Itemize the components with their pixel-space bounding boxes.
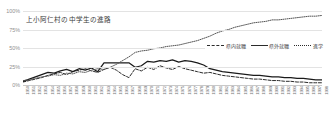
- legend-item[interactable]: 進学: [294, 42, 323, 49]
- legend-line-swatch-icon: [294, 43, 311, 47]
- x-axis-tick-label: 1987: [255, 86, 260, 95]
- x-axis-tick-label: 1962: [99, 86, 104, 95]
- legend-line-swatch-icon: [207, 43, 224, 47]
- legend-item[interactable]: 県内就職: [207, 42, 246, 49]
- x-axis-tick-label: 1968: [137, 86, 142, 95]
- x-axis-tick-label: 1983: [230, 86, 235, 95]
- chart-container: 0%25%50%75%100% 上小阿仁村の中学生の進路 19501951195…: [0, 0, 329, 114]
- x-axis-tick-label: 1991: [280, 86, 285, 95]
- x-axis-tick-label: 1969: [143, 86, 148, 95]
- legend-label: 県内就職: [226, 42, 246, 49]
- x-axis-tick-label: 1955: [56, 86, 61, 95]
- x-axis-tick-label: 1972: [162, 86, 167, 95]
- gridline: [23, 67, 322, 68]
- x-axis-tick-label: 1971: [155, 86, 160, 95]
- chart-legend: 県内就職県外就職進学: [205, 40, 325, 50]
- gridline: [23, 11, 322, 12]
- x-axis-tick-label: 1998: [324, 86, 329, 95]
- x-axis-tick-label: 1960: [87, 86, 92, 95]
- x-axis-tick-label: 1956: [62, 86, 67, 95]
- x-axis-tick-label: 1993: [292, 86, 297, 95]
- series-line-県内就職: [23, 66, 322, 83]
- legend-item[interactable]: 県外就職: [251, 42, 290, 49]
- x-axis-tick-label: 1975: [180, 86, 185, 95]
- x-axis-tick-label: 1973: [168, 86, 173, 95]
- y-axis-tick-label: 75%: [9, 27, 20, 33]
- x-axis-tick-label: 1957: [68, 86, 73, 95]
- x-axis-tick-label: 1952: [37, 86, 42, 95]
- x-axis-tick-label: 1970: [149, 86, 154, 95]
- x-axis-tick-label: 1966: [124, 86, 129, 95]
- x-axis-tick-label: 1988: [261, 86, 266, 95]
- y-axis-labels: 0%25%50%75%100%: [0, 11, 21, 85]
- x-axis-tick-label: 1979: [205, 86, 210, 95]
- series-line-県外就職: [23, 60, 322, 81]
- x-axis-tick-label: 1954: [50, 86, 55, 95]
- legend-label: 県外就職: [269, 42, 289, 49]
- x-axis-labels: 1950195119521953195419551956195719581959…: [23, 86, 322, 112]
- x-axis-tick-label: 1978: [199, 86, 204, 95]
- x-axis-tick-label: 1953: [43, 86, 48, 95]
- legend-label: 進学: [313, 42, 323, 49]
- x-axis-tick-label: 1977: [193, 86, 198, 95]
- x-axis-tick-label: 1982: [224, 86, 229, 95]
- y-axis-tick-label: 0%: [12, 82, 20, 88]
- x-axis-tick-label: 1959: [81, 86, 86, 95]
- x-axis-tick-label: 1950: [25, 86, 30, 95]
- x-axis-tick-label: 1992: [286, 86, 291, 95]
- x-axis-tick-label: 1989: [268, 86, 273, 95]
- x-axis-tick-label: 1967: [130, 86, 135, 95]
- y-axis-tick-label: 25%: [9, 64, 20, 70]
- x-axis-tick-label: 1963: [106, 86, 111, 95]
- x-axis-tick-label: 1951: [31, 86, 36, 95]
- x-axis-tick-label: 1994: [299, 86, 304, 95]
- gridline: [23, 30, 322, 31]
- x-axis-tick-label: 1958: [74, 86, 79, 95]
- x-axis-tick-label: 1984: [236, 86, 241, 95]
- x-axis-tick-label: 1986: [249, 86, 254, 95]
- y-axis-tick-label: 50%: [9, 45, 20, 51]
- y-axis-tick-label: 100%: [6, 8, 20, 14]
- chart-title: 上小阿仁村の中学生の進路: [26, 14, 111, 24]
- x-axis-tick-label: 1976: [187, 86, 192, 95]
- x-axis-tick-label: 1990: [274, 86, 279, 95]
- x-axis-tick-label: 1965: [118, 86, 123, 95]
- x-axis-tick-label: 1974: [174, 86, 179, 95]
- x-axis-tick-label: 1996: [311, 86, 316, 95]
- x-axis-tick-label: 1995: [305, 86, 310, 95]
- x-axis-tick-label: 1997: [317, 86, 322, 95]
- x-axis-tick-label: 1980: [211, 86, 216, 95]
- x-axis-tick-label: 1961: [93, 86, 98, 95]
- legend-line-swatch-icon: [251, 43, 268, 47]
- x-axis-tick-label: 1985: [243, 86, 248, 95]
- x-axis-tick-label: 1981: [218, 86, 223, 95]
- x-axis-tick-label: 1964: [112, 86, 117, 95]
